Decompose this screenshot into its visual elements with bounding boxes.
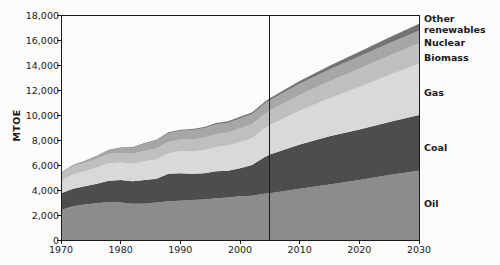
legend-label-nuclear: Nuclear bbox=[424, 38, 465, 49]
legend-label-coal: Coal bbox=[424, 143, 447, 154]
legend-label-other-renewables: Other renewables bbox=[424, 14, 486, 35]
legend-label-gas: Gas bbox=[424, 88, 444, 99]
energy-demand-area-chart: MTOE 02,0004,0006,0008,00010,00012,00014… bbox=[0, 0, 500, 265]
legend-label-biomass: Biomass bbox=[424, 53, 469, 64]
legend-label-oil: Oil bbox=[424, 199, 439, 210]
